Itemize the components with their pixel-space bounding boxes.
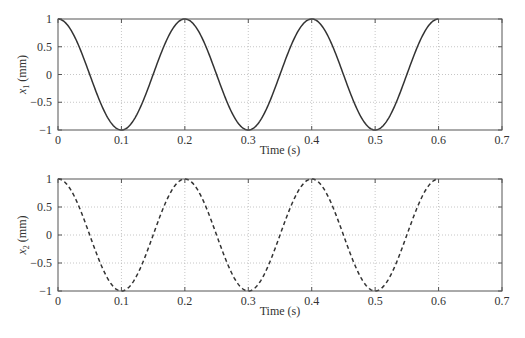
y-tick-label: −0.5 [30, 256, 52, 270]
x-tick-label: 0.4 [304, 133, 319, 147]
x-axis-label: Time (s) [260, 304, 301, 318]
x-tick-label: 0.5 [368, 133, 383, 147]
x-tick-label: 0.7 [495, 133, 510, 147]
x-tick-label: 0.2 [177, 294, 192, 308]
x-tick-label: 0.6 [431, 294, 446, 308]
x-tick-label: 0 [55, 133, 61, 147]
y-axis-label: x2(mm) [15, 216, 31, 256]
y-tick-label: 0.5 [37, 40, 52, 54]
y-tick-label: 0 [46, 228, 52, 242]
y-tick-label: 1 [46, 172, 52, 186]
figure: 00.10.20.30.40.50.60.710.50−0.5−1Time (s… [0, 0, 525, 338]
x-tick-label: 0 [55, 294, 61, 308]
x-tick-label: 0.4 [304, 294, 319, 308]
plot-x1: 00.10.20.30.40.50.60.710.50−0.5−1Time (s… [15, 12, 510, 157]
x-tick-label: 0.5 [368, 294, 383, 308]
x-tick-label: 0.6 [431, 133, 446, 147]
y-axis-label: x1(mm) [15, 55, 31, 95]
y-tick-label: 0.5 [37, 200, 52, 214]
x-tick-label: 0.1 [114, 294, 129, 308]
x-tick-label: 0.3 [241, 133, 256, 147]
x-tick-label: 0.3 [241, 294, 256, 308]
plot-x2: 00.10.20.30.40.50.60.710.50−0.5−1Time (s… [15, 172, 510, 318]
y-tick-label: −1 [39, 123, 52, 137]
x-axis-label: Time (s) [260, 143, 301, 157]
x-tick-label: 0.2 [177, 133, 192, 147]
x-tick-label: 0.7 [495, 294, 510, 308]
y-tick-label: 0 [46, 68, 52, 82]
x-tick-label: 0.1 [114, 133, 129, 147]
y-tick-label: 1 [46, 12, 52, 26]
y-tick-label: −0.5 [30, 95, 52, 109]
y-tick-label: −1 [39, 284, 52, 298]
